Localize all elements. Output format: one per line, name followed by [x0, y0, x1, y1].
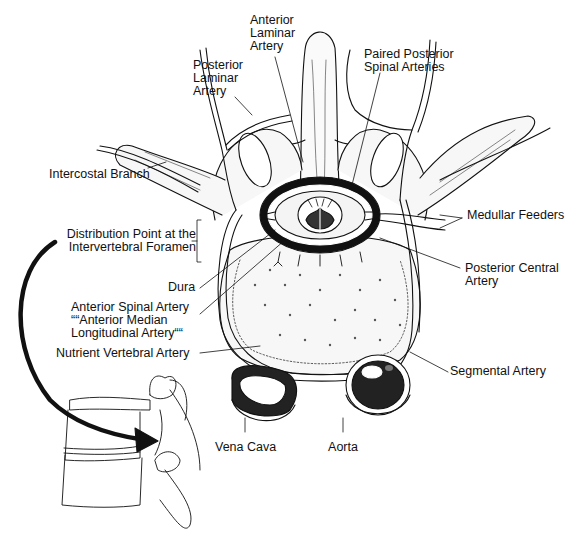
spinous-process — [300, 32, 340, 200]
label-anterior-laminar-artery: Anterior Laminar Artery — [250, 14, 295, 53]
label-nutrient-vertebral-artery: Nutrient Vertebral Artery — [56, 347, 189, 360]
label-anterior-spinal-artery: Anterior Spinal Artery ““Anterior Median… — [71, 301, 189, 340]
label-aorta: Aorta — [322, 441, 364, 454]
transverse-process-right — [418, 116, 535, 215]
vena-cava — [232, 366, 297, 421]
label-distribution-point: Distribution Point at the Intervertebral… — [58, 228, 196, 254]
label-vena-cava: Vena Cava — [215, 441, 275, 454]
label-segmental-artery: Segmental Artery — [450, 365, 546, 378]
label-posterior-laminar-artery: Posterior Laminar Artery — [193, 59, 243, 98]
label-medullar-feeders: Medullar Feeders — [467, 209, 564, 222]
label-intercostal-branch: Intercostal Branch — [49, 168, 150, 181]
aorta — [346, 355, 410, 415]
label-posterior-central-artery: Posterior Central Artery — [465, 262, 559, 288]
label-paired-posterior-spinal-arteries: Paired Posterior Spinal Arteries — [364, 48, 454, 74]
label-dura: Dura — [168, 281, 195, 294]
lateral-vertebra-inset — [62, 376, 200, 528]
